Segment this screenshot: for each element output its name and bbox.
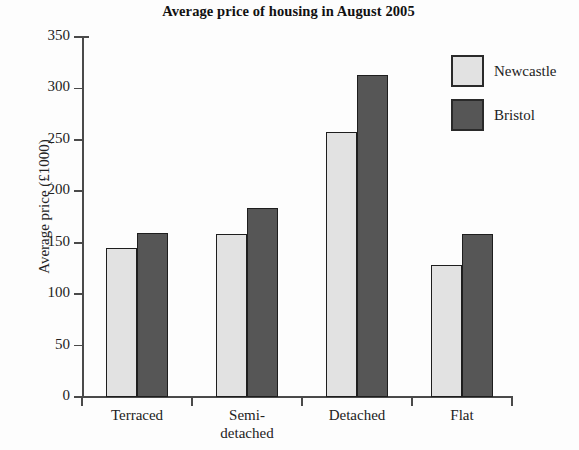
bar-chart: Average price of housing in August 2005 … (0, 0, 579, 450)
x-axis-tick (191, 397, 193, 406)
bar (216, 234, 247, 397)
y-axis-tick (74, 345, 82, 347)
y-axis-tick-label: 300 (22, 78, 70, 95)
y-axis-tick (74, 139, 82, 141)
x-axis-tick (301, 397, 303, 406)
x-axis-category-label: Semi- detached (192, 406, 302, 442)
y-axis-top-cap (82, 36, 89, 38)
y-axis-line (82, 36, 84, 398)
x-axis-category-label: Flat (412, 406, 512, 424)
y-axis-tick (74, 242, 82, 244)
y-axis-tick-label: 350 (22, 27, 70, 44)
y-axis-tick (74, 293, 82, 295)
y-axis-tick-label: 0 (22, 387, 70, 404)
bar (326, 132, 357, 397)
bar (357, 75, 388, 397)
bar (137, 233, 168, 397)
legend-swatch-newcastle-icon (451, 55, 484, 87)
bar (247, 208, 278, 397)
legend-entry-bristol: Bristol (451, 99, 535, 131)
x-axis-tick (511, 397, 513, 406)
legend-label-bristol: Bristol (494, 107, 535, 124)
y-axis-tick-label: 200 (22, 181, 70, 198)
legend-label-newcastle: Newcastle (494, 63, 556, 80)
legend-swatch-bristol-icon (451, 99, 484, 131)
y-axis-tick-label: 150 (22, 233, 70, 250)
y-axis-tick-label: 100 (22, 284, 70, 301)
bar (106, 248, 137, 397)
x-axis-category-label: Detached (302, 406, 412, 424)
chart-title: Average price of housing in August 2005 (0, 3, 579, 20)
bar (462, 234, 493, 397)
y-axis-tick-label: 250 (22, 130, 70, 147)
y-axis-tick-label: 50 (22, 336, 70, 353)
y-axis-tick (74, 88, 82, 90)
y-axis-tick (74, 190, 82, 192)
x-axis-tick (81, 397, 83, 406)
x-axis-tick (411, 397, 413, 406)
bar (431, 265, 462, 397)
chart-title-text: Average price of housing in August 2005 (162, 3, 415, 20)
x-axis-category-label: Terraced (82, 406, 192, 424)
y-axis-tick (74, 36, 82, 38)
legend-entry-newcastle: Newcastle (451, 55, 556, 87)
